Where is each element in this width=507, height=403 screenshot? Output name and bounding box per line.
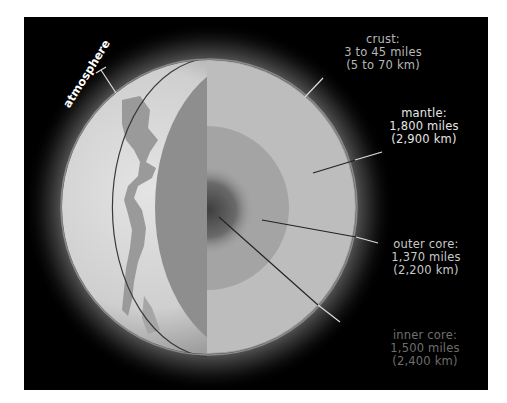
crust-km: (5 to 70 km) (322, 59, 444, 72)
outer-core-label: outer core: 1,370 miles (2,200 km) (376, 238, 476, 277)
outer-core-km: (2,200 km) (376, 264, 476, 277)
crust-label: crust: 3 to 45 miles (5 to 70 km) (322, 33, 444, 72)
mantle-km: (2,900 km) (374, 133, 474, 146)
inner-core-label: inner core: 1,500 miles (2,400 km) (370, 329, 480, 368)
diagram-frame: atmosphere crust: 3 to 45 miles (5 to 70… (24, 17, 488, 390)
inner-core-km: (2,400 km) (370, 355, 480, 368)
mantle-label: mantle: 1,800 miles (2,900 km) (374, 107, 474, 146)
